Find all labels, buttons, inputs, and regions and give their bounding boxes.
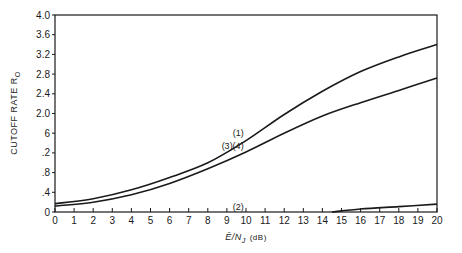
y-tick-label: 4.0	[36, 10, 50, 21]
y-tick-label: 3.2	[36, 49, 50, 60]
curve-2	[332, 204, 437, 212]
curve-label: (2)	[233, 202, 244, 212]
plot-frame	[55, 15, 437, 212]
x-tick-label: 9	[224, 215, 230, 226]
x-tick-label: 19	[412, 215, 424, 226]
y-tick-label: .4	[42, 187, 51, 198]
x-tick-label: 13	[298, 215, 310, 226]
x-tick-label: 11	[260, 215, 271, 226]
y-axis-title-subscript: O	[14, 71, 21, 77]
y-axis-title: CUTOFF RATE RO	[9, 71, 21, 155]
y-tick-label: 2.0	[36, 108, 50, 119]
x-tick-label: 0	[52, 215, 58, 226]
curve-34	[55, 78, 437, 206]
curve-1	[55, 45, 437, 204]
x-tick-label: 2	[90, 215, 96, 226]
x-tick-label: 17	[374, 215, 386, 226]
x-tick-label: 16	[355, 215, 367, 226]
x-tick-label: 7	[186, 215, 192, 226]
y-tick-label: 0	[44, 207, 50, 218]
x-axis-title: Ē/NJ(dB)	[225, 232, 267, 244]
y-tick-label: .2	[42, 147, 51, 158]
x-tick-label: 6	[167, 215, 173, 226]
x-tick-label: 20	[431, 215, 443, 226]
cutoff-rate-chart: 0.4.8.262.02.42.83.23.64.0 0123456789101…	[0, 0, 462, 253]
y-tick-label: 2.4	[36, 88, 50, 99]
y-tick-label: .8	[42, 167, 51, 178]
x-tick-label: 14	[317, 215, 329, 226]
x-tick-label: 1	[71, 215, 77, 226]
x-tick-label: 10	[240, 215, 252, 226]
curve-labels: (1)(3)(4)(2)	[222, 128, 244, 212]
y-tick-label: 3.6	[36, 29, 50, 40]
curve-label: (1)	[233, 128, 244, 138]
y-tick-label: 6	[44, 128, 50, 139]
x-tick-label: 5	[148, 215, 154, 226]
x-tick-label: 15	[336, 215, 348, 226]
x-axis-ticks: 01234567891011121314151617181920	[52, 208, 443, 226]
x-tick-label: 3	[110, 215, 116, 226]
x-tick-label: 8	[205, 215, 211, 226]
x-tick-label: 18	[393, 215, 405, 226]
data-curves	[55, 45, 437, 212]
y-tick-label: 2.8	[36, 69, 50, 80]
x-tick-label: 4	[129, 215, 135, 226]
y-axis-ticks: 0.4.8.262.02.42.83.23.64.0	[36, 10, 55, 218]
curve-label: (3)(4)	[222, 141, 244, 151]
plot-border	[55, 15, 437, 212]
x-tick-label: 12	[279, 215, 291, 226]
